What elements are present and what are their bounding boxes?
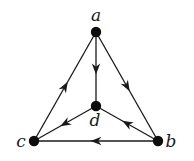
node-label-a: a	[91, 5, 101, 25]
arrowhead-icon	[122, 121, 134, 130]
arrowhead-icon	[60, 117, 72, 126]
directed-graph-diagram: abcd	[0, 0, 194, 161]
node-label-c: c	[16, 131, 26, 151]
node-a	[91, 27, 101, 37]
node-c	[29, 136, 39, 146]
arrowhead-icon	[121, 80, 130, 92]
node-label-d: d	[90, 110, 101, 130]
arrowhead-icon	[59, 82, 68, 94]
node-b	[153, 136, 163, 146]
node-label-b: b	[166, 131, 177, 151]
